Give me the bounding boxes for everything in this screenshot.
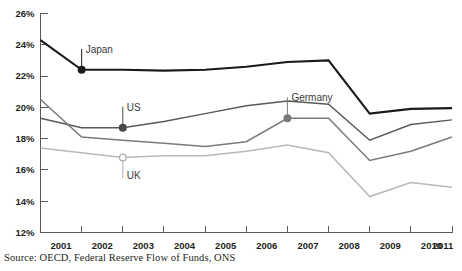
y-axis-line — [41, 14, 48, 233]
x-tick-label: 2002 — [92, 240, 113, 251]
y-tick-label: 16% — [15, 164, 35, 175]
chart-container: 12%14%16%18%20%22%24%26%2001200220032004… — [0, 0, 462, 271]
series-label-germany: Germany — [291, 92, 332, 103]
series-label-uk: UK — [127, 170, 141, 181]
data-point-marker-japan — [78, 67, 85, 74]
x-tick-label: 2001 — [51, 240, 73, 251]
x-tick-label: 2006 — [256, 240, 277, 251]
series-line-uk — [41, 145, 453, 197]
series-label-us: US — [127, 102, 141, 113]
y-tick-label: 20% — [15, 102, 35, 113]
data-point-marker-uk — [120, 154, 127, 161]
data-point-marker-us — [120, 124, 127, 131]
y-tick-label: 18% — [15, 133, 35, 144]
x-tick-label: 2007 — [297, 240, 318, 251]
series-label-japan: Japan — [86, 44, 113, 55]
x-tick-label: 2009 — [380, 240, 401, 251]
data-point-marker-germany — [284, 115, 291, 122]
y-tick-label: 22% — [15, 70, 35, 81]
y-tick-label: 14% — [15, 196, 35, 207]
series-line-us — [41, 101, 453, 140]
y-tick-label: 26% — [15, 8, 35, 19]
x-tick-label: 2003 — [133, 240, 154, 251]
y-tick-label: 12% — [15, 227, 35, 238]
y-tick-label: 24% — [15, 39, 35, 50]
x-tick-label: 2008 — [339, 240, 360, 251]
x-tick-label: 2005 — [215, 240, 237, 251]
source-note: Source: OECD, Federal Reserve Flow of Fu… — [4, 252, 235, 263]
x-tick-label: 2011 — [433, 240, 454, 251]
line-chart-plot: 12%14%16%18%20%22%24%26%2001200220032004… — [0, 0, 462, 271]
x-tick-label: 2004 — [174, 240, 196, 251]
